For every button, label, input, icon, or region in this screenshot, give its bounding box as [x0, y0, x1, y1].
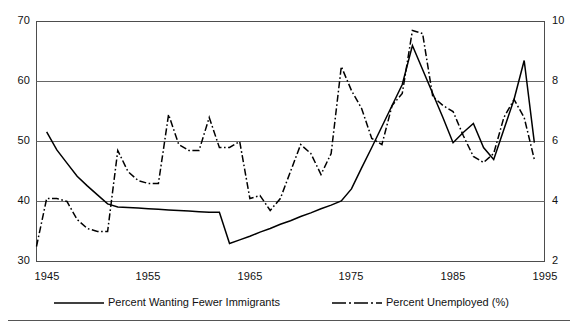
legend-label-percent-wanting-fewer-immigrants: Percent Wanting Fewer Immigrants — [108, 296, 280, 308]
y-axis-left-tick-30: 30 — [4, 254, 30, 266]
y-axis-right-tick-4: 4 — [552, 194, 576, 206]
x-axis-tick-1985: 1985 — [428, 270, 478, 282]
y-axis-right-tick-6: 6 — [552, 134, 576, 146]
y-axis-left-tick-60: 60 — [4, 74, 30, 86]
y-axis-left-tick-40: 40 — [4, 194, 30, 206]
series-line-1 — [37, 31, 535, 247]
gridlines — [37, 82, 545, 202]
y-axis-right-tick-8: 8 — [552, 74, 576, 86]
x-axis-tick-1975: 1975 — [326, 270, 376, 282]
x-axis-tick-1965: 1965 — [225, 270, 275, 282]
chart-figure: 70 60 50 40 30 10 8 6 4 2 1945 1955 1965… — [0, 0, 578, 328]
y-axis-right-tick-10: 10 — [552, 14, 576, 26]
y-axis-left-tick-50: 50 — [4, 134, 30, 146]
data-series-layer — [37, 31, 535, 247]
legend-label-percent-unemployed: Percent Unemployed (%) — [386, 296, 509, 308]
x-axis-tick-1995: 1995 — [520, 270, 570, 282]
y-axis-left-tick-70: 70 — [4, 14, 30, 26]
x-axis-tick-1955: 1955 — [123, 270, 173, 282]
x-axis-tick-1945: 1945 — [22, 270, 72, 282]
y-axis-right-tick-2: 2 — [552, 254, 576, 266]
series-line-0 — [47, 46, 535, 244]
chart-canvas — [0, 0, 578, 328]
